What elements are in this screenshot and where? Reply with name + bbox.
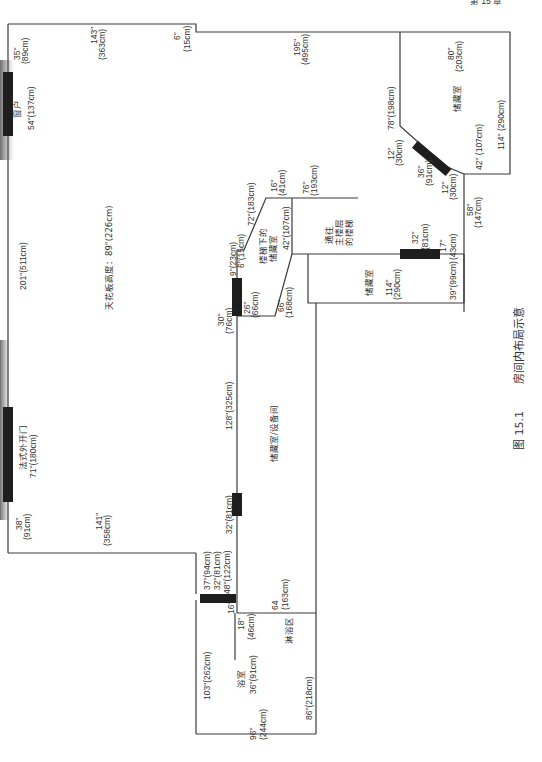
svg-text:(363cm): (363cm) xyxy=(97,29,107,60)
svg-text:(193cm): (193cm) xyxy=(309,165,319,196)
svg-text:的楼梯: 的楼梯 xyxy=(344,219,354,246)
svg-text:(244cm): (244cm) xyxy=(258,709,268,740)
svg-text:(30cm): (30cm) xyxy=(448,173,458,200)
svg-text:储藏室: 储藏室 xyxy=(268,235,278,262)
svg-text:(290cm): (290cm) xyxy=(392,269,402,300)
svg-text:储藏室/设备间: 储藏室/设备间 xyxy=(269,405,279,462)
dimension-labels: 35" (89cm) 窗户 54"(137cm) 143" (363cm) 6"… xyxy=(12,25,506,740)
svg-text:(66cm): (66cm) xyxy=(250,291,260,318)
svg-text:储藏室: 储藏室 xyxy=(452,85,462,112)
svg-text:(203cm): (203cm) xyxy=(454,41,464,72)
figure-caption-number: 图 15.1 xyxy=(513,411,526,450)
svg-text:储藏室: 储藏室 xyxy=(364,269,374,296)
svg-text:(43cm): (43cm) xyxy=(448,233,458,260)
svg-text:39"(99cm): 39"(99cm) xyxy=(448,261,458,300)
svg-text:(168cm): (168cm) xyxy=(284,287,294,318)
svg-text:通往: 通往 xyxy=(324,226,334,244)
svg-text:128"(325cm): 128"(325cm) xyxy=(224,381,234,430)
svg-text:(358cm): (358cm) xyxy=(102,515,112,546)
french-door-marker xyxy=(3,407,13,502)
svg-text:(30cm): (30cm) xyxy=(394,139,404,166)
svg-text:(81cm): (81cm) xyxy=(420,223,430,250)
walls xyxy=(8,24,510,734)
svg-text:42"(107cm): 42"(107cm) xyxy=(281,206,291,250)
svg-text:(76cm): (76cm) xyxy=(224,307,234,334)
svg-text:54"(137cm): 54"(137cm) xyxy=(26,86,36,130)
svg-text:(147cm): (147cm) xyxy=(473,197,483,228)
svg-text:32"(81cm): 32"(81cm) xyxy=(224,495,234,534)
svg-text:(15cm): (15cm) xyxy=(182,25,192,52)
svg-text:64: 64 xyxy=(270,600,280,610)
svg-text:32": 32" xyxy=(410,232,420,244)
svg-text:楼梯下的: 楼梯下的 xyxy=(258,228,268,264)
svg-text:48"(122cm): 48"(122cm) xyxy=(222,550,232,594)
svg-text:72"(183cm): 72"(183cm) xyxy=(246,182,256,226)
svg-text:(495cm): (495cm) xyxy=(300,34,310,65)
svg-text:18": 18" xyxy=(236,618,246,630)
svg-text:(41cm): (41cm) xyxy=(277,169,287,196)
svg-text:86"(218cm): 86"(218cm) xyxy=(304,676,314,720)
svg-text:96": 96" xyxy=(248,728,258,740)
svg-text:浴室: 浴室 xyxy=(236,670,246,688)
svg-text:16": 16" xyxy=(226,602,236,614)
svg-text:6"(15cm): 6"(15cm) xyxy=(236,234,246,268)
svg-text:(91cm): (91cm) xyxy=(22,513,32,540)
svg-text:42" (107cm): 42" (107cm) xyxy=(474,124,484,170)
svg-text:6": 6" xyxy=(172,32,182,40)
svg-text:淋浴区: 淋浴区 xyxy=(284,617,294,644)
svg-text:17": 17" xyxy=(438,240,448,252)
svg-text:(89cm): (89cm) xyxy=(20,37,30,64)
figure-caption-title: 房间内布局示意 xyxy=(512,307,526,384)
page-header: 第 15 章 xyxy=(470,0,502,6)
svg-text:114" (290cm): 114" (290cm) xyxy=(496,100,506,150)
svg-text:(91cm): (91cm) xyxy=(424,159,434,186)
svg-text:天花板高度：89"(226cm): 天花板高度：89"(226cm) xyxy=(104,205,114,310)
svg-text:103"(262cm): 103"(262cm) xyxy=(202,651,212,700)
svg-text:窗户: 窗户 xyxy=(12,100,22,118)
svg-text:36"(91cm): 36"(91cm) xyxy=(248,655,258,694)
svg-text:(163cm): (163cm) xyxy=(280,579,290,610)
svg-text:37"(94cm): 37"(94cm) xyxy=(202,551,212,590)
svg-text:78"(198cm): 78"(198cm) xyxy=(386,86,396,130)
svg-text:法式外开门: 法式外开门 xyxy=(18,425,28,470)
svg-text:201"(511cm): 201"(511cm) xyxy=(18,242,28,290)
svg-text:71"(180cm): 71"(180cm) xyxy=(28,434,38,478)
floor-plan: 第 15 章 35 xyxy=(0,0,542,762)
svg-text:(46cm): (46cm) xyxy=(246,613,256,640)
svg-text:主楼层: 主楼层 xyxy=(334,219,344,246)
svg-text:32"(81cm): 32"(81cm) xyxy=(212,551,222,590)
